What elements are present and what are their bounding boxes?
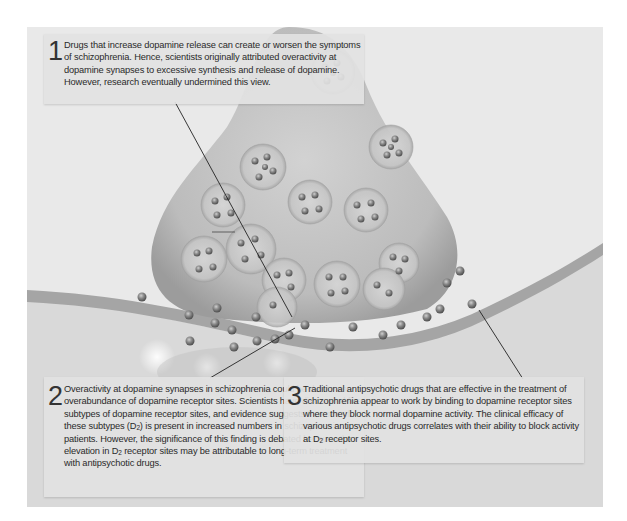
callout-1: 1 Drugs that increase dopamine release c…: [44, 34, 364, 104]
callout-number: 3: [287, 383, 302, 409]
callout-text: Traditional antipsychotic drugs that are…: [303, 383, 581, 445]
callout-number: 2: [48, 383, 63, 409]
callout-number: 1: [48, 38, 63, 64]
callout-text: Drugs that increase dopamine release can…: [64, 39, 364, 89]
callout-3: 3 Traditional antipsychotic drugs that a…: [284, 377, 584, 463]
synapse-diagram-panel: 1 Drugs that increase dopamine release c…: [27, 27, 603, 507]
